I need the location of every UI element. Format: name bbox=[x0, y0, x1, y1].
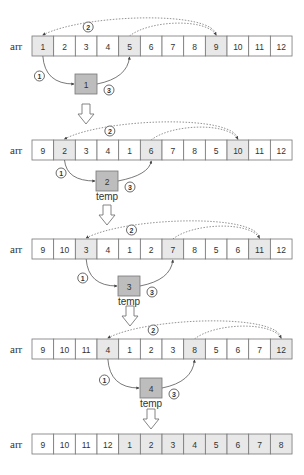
temp-value: 3 bbox=[127, 282, 132, 292]
cell-value: 9 bbox=[214, 42, 219, 52]
array-label: arr bbox=[10, 438, 23, 450]
step-number-badge: 3 bbox=[169, 389, 179, 399]
array-cell: 6 bbox=[140, 140, 162, 160]
array-cell: 3 bbox=[75, 36, 97, 56]
arc-copy-to-temp bbox=[86, 259, 117, 286]
arc-copy-to-temp bbox=[43, 56, 74, 84]
step-number-badge: 2 bbox=[83, 22, 93, 32]
array-cell: 6 bbox=[227, 434, 249, 454]
array-cell: 3 bbox=[162, 434, 184, 454]
step-number: 2 bbox=[86, 24, 90, 31]
cell-value: 8 bbox=[192, 42, 197, 52]
step-number: 1 bbox=[37, 73, 41, 80]
dotted-arc-move-to-first bbox=[65, 122, 238, 140]
array-cell: 3 bbox=[162, 339, 184, 359]
cell-value: 10 bbox=[60, 245, 70, 255]
dotted-arc-move-to-first bbox=[86, 221, 259, 239]
cell-value: 8 bbox=[192, 245, 197, 255]
cell-value: 1 bbox=[127, 146, 132, 156]
array-cell: 2 bbox=[54, 140, 76, 160]
dotted-arc-move-to-first bbox=[43, 18, 216, 36]
step-number-badge: 1 bbox=[34, 71, 44, 81]
cell-value: 12 bbox=[276, 146, 286, 156]
cell-value: 12 bbox=[276, 42, 286, 52]
cell-value: 11 bbox=[255, 42, 264, 52]
array-cell: 5 bbox=[205, 239, 227, 259]
dotted-arc-move-to-middle bbox=[195, 326, 282, 339]
temp-variable: 3temp bbox=[118, 276, 141, 307]
step-number-badge: 3 bbox=[147, 287, 157, 297]
final-array: arr910111212345678 bbox=[10, 434, 292, 454]
dotted-arc-move-to-middle bbox=[130, 23, 217, 36]
array-cell: 11 bbox=[249, 239, 271, 259]
array-cell: 9 bbox=[32, 434, 54, 454]
rotation-step-4: 2arr910114123856712134temp bbox=[10, 321, 292, 429]
cell-value: 3 bbox=[84, 245, 89, 255]
cell-value: 10 bbox=[60, 345, 70, 355]
cell-value: 7 bbox=[170, 42, 175, 52]
cell-value: 12 bbox=[276, 245, 286, 255]
array-cell: 11 bbox=[249, 36, 271, 56]
cell-value: 8 bbox=[279, 440, 284, 450]
cell-value: 5 bbox=[214, 440, 219, 450]
array-cell: 1 bbox=[119, 239, 141, 259]
array-cell: 8 bbox=[184, 339, 206, 359]
array-cell: 10 bbox=[227, 36, 249, 56]
cell-value: 4 bbox=[105, 245, 110, 255]
array-label: arr bbox=[10, 343, 23, 355]
cell-value: 11 bbox=[255, 245, 264, 255]
array-cell: 1 bbox=[119, 434, 141, 454]
array-cell: 1 bbox=[119, 140, 141, 160]
array-cell: 6 bbox=[140, 36, 162, 56]
rotation-step-2: 2arr923416785101112132temp bbox=[10, 122, 292, 225]
cell-value: 3 bbox=[170, 440, 175, 450]
cell-value: 4 bbox=[105, 42, 110, 52]
cell-value: 8 bbox=[192, 345, 197, 355]
cell-value: 8 bbox=[192, 146, 197, 156]
array-cell: 11 bbox=[75, 339, 97, 359]
cell-value: 2 bbox=[149, 245, 154, 255]
cell-value: 11 bbox=[82, 345, 91, 355]
cell-value: 4 bbox=[192, 440, 197, 450]
rotation-step-3: 2arr910341278561112133temp bbox=[10, 221, 292, 326]
step-number: 3 bbox=[150, 289, 154, 296]
step-number-badge: 1 bbox=[99, 375, 109, 385]
array-cell: 9 bbox=[32, 239, 54, 259]
step-number: 1 bbox=[102, 377, 106, 384]
down-arrow-icon bbox=[122, 306, 138, 326]
arc-copy-to-temp bbox=[108, 359, 139, 388]
cell-value: 12 bbox=[276, 345, 286, 355]
cell-value: 9 bbox=[40, 440, 45, 450]
step-number: 2 bbox=[151, 327, 155, 334]
cell-value: 10 bbox=[60, 440, 70, 450]
array-cell: 2 bbox=[140, 239, 162, 259]
cell-value: 2 bbox=[149, 440, 154, 450]
cell-value: 3 bbox=[84, 146, 89, 156]
array-cell: 3 bbox=[75, 140, 97, 160]
step-number: 1 bbox=[59, 170, 63, 177]
cell-value: 4 bbox=[105, 146, 110, 156]
step-number-badge: 2 bbox=[148, 325, 158, 335]
cell-value: 6 bbox=[235, 345, 240, 355]
array-cell: 4 bbox=[97, 239, 119, 259]
arc-temp-to-array bbox=[118, 161, 151, 181]
temp-variable: 1 bbox=[75, 74, 97, 94]
array-cell: 10 bbox=[54, 239, 76, 259]
array-cell: 8 bbox=[184, 239, 206, 259]
temp-label: temp bbox=[96, 191, 119, 202]
cell-value: 2 bbox=[62, 146, 67, 156]
step-number-badge: 2 bbox=[105, 126, 115, 136]
array-cell: 10 bbox=[54, 434, 76, 454]
cell-value: 6 bbox=[235, 440, 240, 450]
arc-temp-to-array bbox=[140, 260, 173, 286]
arc-copy-to-temp bbox=[65, 160, 95, 181]
cell-value: 1 bbox=[127, 440, 132, 450]
temp-label: temp bbox=[118, 296, 141, 307]
array-cell: 4 bbox=[97, 140, 119, 160]
array-label: arr bbox=[10, 243, 23, 255]
array-cell: 7 bbox=[162, 140, 184, 160]
cell-value: 1 bbox=[40, 42, 45, 52]
cell-value: 2 bbox=[62, 42, 67, 52]
cell-value: 9 bbox=[40, 245, 45, 255]
cell-value: 4 bbox=[105, 345, 110, 355]
